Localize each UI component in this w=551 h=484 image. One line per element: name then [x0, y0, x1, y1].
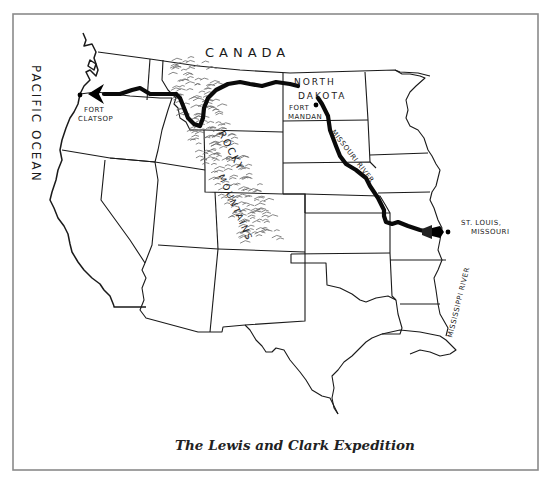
- label-fort-mandan-2: MANDAN: [288, 113, 322, 121]
- mountain-stroke: [207, 121, 214, 123]
- mountain-stroke: [185, 82, 194, 84]
- mountain-stroke: [180, 85, 185, 86]
- mountain-stroke: [262, 219, 268, 221]
- mountain-stroke: [255, 203, 266, 206]
- st-louis-marker: [446, 230, 451, 235]
- arrow-fletching-icon: [422, 225, 444, 239]
- mountain-stroke: [238, 187, 249, 190]
- lewis-and-clark-map: CANADA PACIFIC OCEAN NORTH DAKOTA FORT M…: [0, 0, 551, 484]
- mountain-stroke: [262, 215, 269, 217]
- label-mississippi-river: MISSISSIPPI RIVER: [446, 266, 471, 338]
- mountain-stroke: [230, 175, 238, 177]
- mountain-stroke: [276, 238, 284, 240]
- mountain-stroke: [168, 72, 177, 74]
- mountain-stroke: [195, 84, 201, 85]
- mountain-stroke: [193, 98, 204, 101]
- label-north: NORTH: [294, 77, 336, 87]
- mountain-stroke: [181, 69, 186, 70]
- mountain-stroke: [272, 235, 282, 237]
- mountain-stroke: [186, 73, 194, 75]
- mountain-stroke: [248, 215, 256, 217]
- mountain-stroke: [217, 104, 227, 106]
- fort-clatsop-marker: [78, 93, 83, 98]
- mountain-stroke: [257, 219, 262, 220]
- mountain-stroke: [216, 122, 222, 123]
- label-pacific-ocean: PACIFIC OCEAN: [29, 65, 43, 183]
- mountain-stroke: [247, 205, 255, 207]
- mountain-stroke: [172, 86, 180, 88]
- label-fort-clatsop-1: FORT: [84, 106, 104, 114]
- mountain-stroke: [250, 217, 255, 218]
- mountain-stroke: [214, 159, 220, 161]
- label-st-louis-2: MISSOURI: [471, 228, 510, 236]
- mountain-stroke: [171, 88, 181, 90]
- mountain-stroke: [235, 183, 241, 184]
- mountain-stroke: [187, 77, 194, 79]
- mountain-stroke: [252, 221, 260, 223]
- fort-mandan-marker: [314, 103, 319, 108]
- mountain-stroke: [186, 89, 193, 91]
- mountain-stroke: [229, 178, 236, 180]
- arrowhead-west-icon: [88, 84, 104, 104]
- label-fort-mandan-1: FORT: [289, 104, 309, 112]
- mountain-stroke: [262, 212, 271, 214]
- label-canada: CANADA: [205, 45, 290, 60]
- mountain-stroke: [216, 113, 223, 115]
- mountain-stroke: [256, 235, 262, 237]
- mountain-stroke: [172, 67, 180, 69]
- mountain-stroke: [202, 61, 209, 63]
- mountain-stroke: [274, 230, 280, 231]
- mountain-stroke: [267, 215, 278, 218]
- mountain-stroke: [254, 199, 259, 200]
- map-caption: The Lewis and Clark Expedition: [175, 437, 415, 453]
- label-dakota: DAKOTA: [298, 91, 346, 101]
- mountain-stroke: [205, 151, 212, 153]
- mountain-stroke: [204, 137, 211, 139]
- mountain-stroke: [252, 190, 261, 192]
- mountain-stroke: [257, 184, 263, 185]
- mountain-stroke: [212, 83, 222, 86]
- mountain-stroke: [216, 155, 222, 156]
- mountain-stroke: [188, 57, 194, 59]
- label-st-louis-1: ST. LOUIS,: [461, 219, 501, 227]
- mountain-stroke: [202, 163, 209, 165]
- mountain-stroke: [177, 89, 186, 91]
- route-fort-mandan-to-continental-divide: [176, 82, 298, 126]
- mountain-stroke: [172, 58, 183, 61]
- mountain-stroke: [199, 91, 205, 93]
- mountain-stroke: [200, 78, 208, 80]
- mountain-stroke: [246, 173, 252, 175]
- mountain-stroke: [189, 66, 195, 67]
- mountain-stroke: [196, 143, 202, 144]
- mountain-stroke: [242, 203, 249, 205]
- label-mountains: MOUNTAINS: [216, 173, 255, 243]
- mountain-stroke: [212, 99, 220, 101]
- route-to-fort-clatsop: [104, 88, 176, 94]
- mountain-stroke: [214, 166, 225, 169]
- mountain-stroke: [196, 156, 204, 158]
- mountain-stroke: [195, 150, 203, 152]
- mountain-stroke: [186, 67, 195, 69]
- label-fort-clatsop-2: CLATSOP: [78, 115, 113, 123]
- mountain-stroke: [218, 194, 225, 196]
- mountain-stroke: [191, 135, 199, 137]
- mountain-stroke: [255, 231, 266, 234]
- mountain-stroke: [262, 210, 269, 212]
- mountain-stroke: [211, 163, 217, 164]
- mountain-stroke: [264, 198, 274, 200]
- mountain-stroke: [264, 221, 270, 223]
- mountain-stroke: [224, 168, 232, 170]
- mountain-stroke: [193, 138, 199, 139]
- mountain-stroke: [225, 165, 231, 166]
- label-rocky: ROCKY: [216, 129, 246, 173]
